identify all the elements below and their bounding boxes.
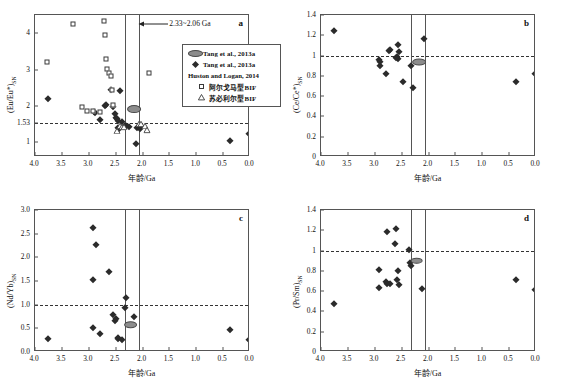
ytick-mark-c-1 (35, 328, 38, 329)
event-line-a-2 (139, 15, 140, 155)
data-point-diamond (116, 88, 124, 96)
ytick-label-b-5: 1 (290, 50, 316, 59)
xtick-mark-a-6 (196, 152, 197, 155)
panel-letter-d: d (524, 213, 529, 223)
data-point-square (111, 102, 116, 107)
xtick-mark-a-0 (35, 152, 36, 155)
plot-area-b (320, 14, 535, 156)
data-point-square (84, 109, 89, 114)
reference-line-b (321, 56, 534, 57)
xtick-mark-c-1 (61, 347, 62, 350)
legend-item-4: 苏必利尔型BIF (187, 92, 276, 103)
data-point-diamond (246, 336, 249, 344)
xtick-mark-b-1 (347, 152, 348, 155)
data-point-diamond (331, 300, 339, 308)
legend-label-4: 苏必利尔型BIF (209, 93, 256, 103)
data-point-square (70, 22, 75, 27)
event-line-a-1 (125, 15, 126, 155)
ytick-label-b-6: 1.2 (290, 30, 316, 39)
ytick-mark-d-4 (321, 270, 324, 271)
event-band-label: 2.33~2.06 Ga (169, 19, 210, 28)
data-point-diamond (512, 276, 520, 284)
xtick-mark-c-0 (35, 347, 36, 350)
xtick-mark-a-4 (142, 152, 143, 155)
x-axis-title-c: 年龄/Ga (128, 367, 156, 378)
xtick-mark-b-5 (455, 152, 456, 155)
data-point-triangle (143, 127, 150, 133)
xtick-label-c-7: 0.5 (218, 354, 227, 363)
data-point-diamond (121, 305, 129, 313)
ytick-mark-b-2 (321, 116, 324, 117)
data-point-diamond (375, 284, 383, 292)
data-point-diamond (245, 131, 249, 139)
data-point-square (44, 60, 49, 65)
ytick-mark-b-1 (321, 136, 324, 137)
ytick-mark-b-3 (321, 96, 324, 97)
xtick-label-c-4: 2.0 (137, 354, 146, 363)
xtick-mark-d-5 (455, 347, 456, 350)
data-point-square (97, 110, 102, 115)
data-point-diamond (420, 35, 428, 43)
xtick-label-b-8: 0.0 (530, 159, 539, 168)
xtick-label-d-7: 0.5 (504, 354, 513, 363)
xtick-label-b-5: 1.5 (450, 159, 459, 168)
ytick-mark-c-2 (35, 304, 38, 305)
event-line-d-2 (425, 210, 426, 350)
data-point-diamond (405, 246, 413, 254)
xtick-mark-b-3 (401, 152, 402, 155)
reference-line-d (321, 251, 534, 252)
xtick-mark-d-0 (321, 347, 322, 350)
xtick-label-d-1: 3.5 (342, 354, 351, 363)
xtick-label-b-6: 1.0 (477, 159, 486, 168)
ytick-mark-b-4 (321, 75, 324, 76)
data-point-diamond (131, 313, 139, 321)
xtick-label-b-7: 0.5 (504, 159, 513, 168)
data-point-diamond (226, 326, 234, 334)
panel-letter-a: a (239, 18, 244, 28)
ytick-label-a-0: 1 (4, 137, 30, 146)
event-line-d-1 (411, 210, 412, 350)
data-point-diamond (532, 70, 535, 78)
ytick-label-a-3: 3 (4, 64, 30, 73)
ytick-mark-d-5 (321, 250, 324, 251)
xtick-label-a-3: 2.5 (110, 159, 119, 168)
data-point-diamond (96, 330, 104, 338)
xtick-mark-c-3 (115, 347, 116, 350)
square-icon (199, 84, 204, 89)
ytick-label-d-4: 0.8 (290, 265, 316, 274)
ytick-label-c-4: 2.0 (4, 252, 30, 261)
xtick-mark-d-6 (482, 347, 483, 350)
data-point-diamond (105, 269, 113, 277)
x-axis-title-a: 年龄/Ga (128, 172, 156, 183)
compilation-ellipse-b (412, 59, 426, 66)
event-band-arrow-icon (138, 19, 172, 29)
data-point-square (146, 70, 151, 75)
xtick-label-d-3: 2.5 (396, 354, 405, 363)
xtick-label-c-2: 3.0 (83, 354, 92, 363)
xtick-mark-d-3 (401, 347, 402, 350)
data-point-diamond (89, 276, 97, 284)
figure-root: 11.532344.03.53.02.52.01.51.00.50.0年龄/Ga… (0, 0, 565, 391)
xtick-label-b-2: 3.0 (369, 159, 378, 168)
y-axis-title-d: (Pr/Sm)SN (292, 276, 303, 309)
plot-area-d (320, 209, 535, 351)
data-point-diamond (392, 225, 400, 233)
xtick-mark-c-7 (223, 347, 224, 350)
data-point-diamond (383, 229, 391, 237)
ytick-mark-a-1 (35, 123, 38, 124)
data-point-diamond (331, 27, 339, 35)
xtick-label-a-0: 4.0 (29, 159, 38, 168)
xtick-mark-a-1 (61, 152, 62, 155)
x-axis-title-d: 年龄/Ga (414, 367, 442, 378)
data-point-diamond (45, 335, 53, 343)
ytick-mark-c-5 (35, 233, 38, 234)
legend-item-0: Tang et al., 2013a (187, 48, 276, 59)
xtick-label-d-2: 3.0 (369, 354, 378, 363)
panel-letter-c: c (239, 213, 243, 223)
data-point-diamond (376, 62, 384, 70)
xtick-label-a-1: 3.5 (56, 159, 65, 168)
data-point-diamond (92, 241, 100, 249)
xtick-label-d-0: 4.0 (315, 354, 324, 363)
xtick-label-a-8: 0.0 (244, 159, 253, 168)
legend-symbol-diamond (187, 62, 203, 67)
